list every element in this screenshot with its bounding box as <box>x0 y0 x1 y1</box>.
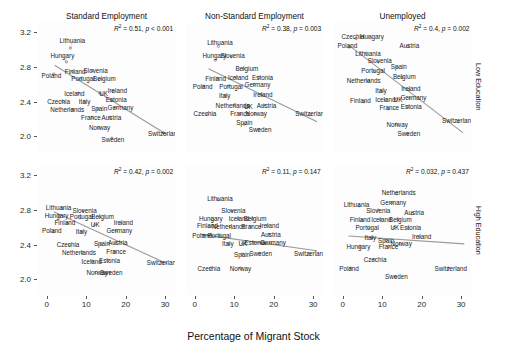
point-label-italy: Italy <box>375 88 387 94</box>
stat-annotation: R2 = 0.51, p < 0.001 <box>114 24 173 32</box>
stat-annotation: R2 = 0.4, p = 0.002 <box>414 24 469 32</box>
point-label-lithuania: Lithuania <box>207 40 233 46</box>
point-label-netherlands: Netherlands <box>382 190 416 196</box>
point-label-germany: Germany <box>380 200 406 206</box>
y-tick-mark <box>34 210 37 211</box>
y-tick-label: 2.4 <box>0 240 31 249</box>
point-label-france: France <box>379 105 399 111</box>
point-label-france: France <box>106 249 126 255</box>
point-label-switzerland: Switzerland <box>147 259 175 265</box>
x-tick-label: 30 <box>161 300 170 309</box>
x-tick-mark <box>343 296 344 299</box>
y-tick-label: 3.2 <box>0 28 31 37</box>
point-label-spain: Spain <box>234 252 250 258</box>
point-label-poland: Poland <box>338 43 358 49</box>
point-label-ireland: Ireland <box>401 86 420 92</box>
point-label-sweden: Sweden <box>398 131 421 137</box>
point-label-switzerland: Switzerland <box>442 118 471 124</box>
point-label-estonia: Estonia <box>400 225 421 231</box>
x-tick-label: 0 <box>192 300 196 309</box>
point-label-germany: Germany <box>260 240 286 246</box>
stat-annotation: R2 = 0.38, p = 0.003 <box>262 24 321 32</box>
x-tick-mark <box>165 296 166 299</box>
point-label-lithuania: Lithuania <box>60 38 86 44</box>
y-tick-mark <box>34 279 37 280</box>
point-label-ireland: Ireland <box>412 234 431 240</box>
x-tick-label: 20 <box>269 300 278 309</box>
point-label-portugal: Portugal <box>219 83 242 89</box>
point-label-italy: Italy <box>222 241 234 247</box>
x-tick-label: 0 <box>340 300 344 309</box>
point-label-finland: Finland <box>350 98 371 104</box>
point-label-switzerland: Switzerland <box>148 131 175 137</box>
point-label-germany: Germany <box>245 82 271 88</box>
point-label-sweden: Sweden <box>102 137 125 143</box>
point-label-austria: Austria <box>257 102 277 108</box>
point-label-lithuania: Lithuania <box>355 50 381 56</box>
point-label-france: France <box>379 244 399 250</box>
point-label-germany: Germany <box>106 228 132 234</box>
point-label-switzerland: Switzerland <box>295 111 323 117</box>
y-tick-label: 2.4 <box>0 97 31 106</box>
point-label-hungary: Hungary <box>360 34 384 40</box>
point-label-spain: Spain <box>91 106 107 112</box>
point-label-portugal: Portugal <box>71 76 94 82</box>
point-label-netherlands: Netherlands <box>212 224 246 230</box>
point-label-austria: Austria <box>108 240 128 246</box>
point-label-italy: Italy <box>365 235 377 241</box>
point-label-belgium: Belgium <box>235 66 258 72</box>
point-label-czechia: Czechia <box>198 265 221 271</box>
y-tick-mark <box>34 136 37 137</box>
y-tick-label: 2.8 <box>0 63 31 72</box>
column-title-unemployed: Unemployed <box>334 12 471 21</box>
y-tick-label: 3.2 <box>0 171 31 180</box>
point-label-iceland: Iceland <box>64 90 84 96</box>
point-label-france: France <box>242 224 262 230</box>
x-tick-label: 10 <box>82 300 91 309</box>
point-label-ireland: Ireland <box>260 223 279 229</box>
panel-low-education-non-standard-employment: LithuaniaHungarySloveniaBelgiumFinlandIc… <box>186 22 323 152</box>
point-label-netherlands: Netherlands <box>62 250 96 256</box>
point-label-uk: UK <box>390 225 399 231</box>
point-label-slovenia: Slovenia <box>221 53 245 59</box>
y-tick-label: 2.8 <box>0 206 31 215</box>
point-label-lithuania: Lithuania <box>207 196 233 202</box>
point-label-belgium: Belgium <box>393 74 416 80</box>
point-label-belgium: Belgium <box>93 76 116 82</box>
y-tick-mark <box>34 102 37 103</box>
point-label-austria: Austria <box>261 232 281 238</box>
x-tick-mark <box>195 296 196 299</box>
point-label-czechia: Czechia <box>364 257 387 263</box>
point-label-slovenia: Slovenia <box>221 207 245 213</box>
panel-low-education-standard-employment: LithuaniaHungaryPolandFinlandSloveniaPor… <box>38 22 175 152</box>
point-label-poland: Poland <box>42 73 62 79</box>
point-label-finland: Finland <box>205 76 226 82</box>
point-label-norway: Norway <box>230 265 251 271</box>
point-label-ireland: Ireland <box>114 219 133 225</box>
stat-annotation: R2 = 0.032, p = 0.437 <box>406 167 469 175</box>
point-label-estonia: Estonia <box>401 103 422 109</box>
point-label-poland: Poland <box>193 83 213 89</box>
point-label-estonia: Estonia <box>99 258 120 264</box>
point-label-poland: Poland <box>339 265 359 271</box>
point-label-uk: UK <box>91 222 100 228</box>
point-label-austria: Austria <box>400 43 420 49</box>
figure-root: Mean Stance on Universal Basic Income Pe… <box>0 0 507 352</box>
point-label-norway: Norway <box>246 111 267 117</box>
point-label-norway: Norway <box>386 122 407 128</box>
y-tick-mark <box>34 245 37 246</box>
point-label-portugal: Portugal <box>355 225 378 231</box>
y-axis-label: Mean Stance on Universal Basic Income <box>0 0 12 28</box>
point-label-portugal: Portugal <box>207 232 230 238</box>
point-label-estonia: Estonia <box>252 75 273 81</box>
point-label-belgium: Belgium <box>91 214 114 220</box>
point-label-germany: Germany <box>108 105 134 111</box>
y-tick-label: 2.0 <box>0 275 31 284</box>
point-label-hungary: Hungary <box>51 53 75 59</box>
point-label-hungary: Hungary <box>347 244 371 250</box>
point-label-iceland: Iceland <box>375 96 395 102</box>
x-tick-label: 20 <box>417 300 426 309</box>
row-strip-low-education: Low Education <box>474 22 483 152</box>
point-label-switzerland: Switzerland <box>294 251 323 257</box>
point-label-switzerland: Switzerland <box>435 265 468 271</box>
